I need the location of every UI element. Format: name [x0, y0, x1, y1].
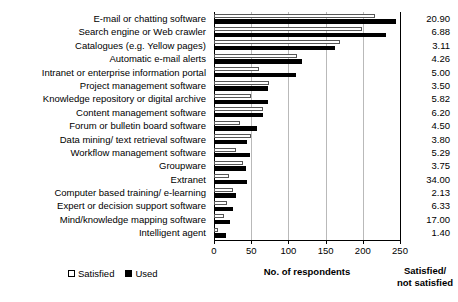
- bar-satisfied: [214, 54, 297, 58]
- bar-satisfied: [214, 27, 362, 31]
- bar-satisfied: [214, 148, 236, 152]
- category-label: Expert or decision support software: [0, 199, 210, 212]
- category-label: Content management software: [0, 106, 210, 119]
- legend-label-satisfied: Satisfied: [78, 268, 114, 279]
- satisfied-ratio-title: Satisfied/ not satisfied: [392, 265, 458, 288]
- satisfied-ratio-value: 3.11: [404, 39, 456, 52]
- bar-satisfied: [214, 188, 233, 192]
- bar-satisfied: [214, 14, 375, 18]
- x-axis-line: [214, 240, 400, 241]
- category-label: Workflow management software: [0, 146, 210, 159]
- bar-group: [214, 79, 400, 92]
- bar-group: [214, 119, 400, 132]
- gridline: [400, 12, 401, 240]
- bar-group: [214, 25, 400, 38]
- bar-satisfied: [214, 134, 251, 138]
- bar-group: [214, 173, 400, 186]
- bar-used: [214, 153, 250, 157]
- bar-group: [214, 213, 400, 226]
- bar-used: [214, 73, 296, 77]
- satisfied-ratio-value: 2.13: [404, 186, 456, 199]
- bar-satisfied: [214, 94, 251, 98]
- bar-satisfied: [214, 214, 224, 218]
- bar-group: [214, 186, 400, 199]
- bar-group: [214, 133, 400, 146]
- x-axis-title: No. of respondents: [214, 266, 400, 277]
- satisfied-ratio-value: 4.26: [404, 52, 456, 65]
- bar-satisfied: [214, 40, 340, 44]
- category-label: Catalogues (e.g. Yellow pages): [0, 39, 210, 52]
- legend: Satisfied Used: [68, 268, 158, 279]
- x-axis-tick-label: 250: [392, 245, 408, 256]
- satisfied-ratio-value: 3.75: [404, 159, 456, 172]
- category-label: Groupware: [0, 159, 210, 172]
- bar-used: [214, 220, 230, 224]
- bars-container: [214, 12, 400, 240]
- category-label-column: E-mail or chatting softwareSearch engine…: [0, 12, 210, 240]
- bar-satisfied: [214, 161, 243, 165]
- x-axis-tick: [326, 240, 327, 244]
- bar-used: [214, 126, 257, 130]
- bar-used: [214, 19, 396, 23]
- bar-satisfied: [214, 121, 240, 125]
- bar-used: [214, 46, 335, 50]
- category-label: Intelligent agent: [0, 226, 210, 239]
- x-axis-tick-label: 0: [211, 245, 216, 256]
- satisfied-ratio-title-line1: Satisfied/: [392, 265, 458, 277]
- category-label: Knowledge repository or digital archive: [0, 92, 210, 105]
- x-axis-tick-label: 150: [318, 245, 334, 256]
- satisfied-ratio-value: 17.00: [404, 213, 456, 226]
- x-axis-tick: [214, 240, 215, 244]
- bar-satisfied: [214, 201, 227, 205]
- satisfied-ratio-value: 6.20: [404, 106, 456, 119]
- bar-used: [214, 207, 233, 211]
- legend-swatch-used-icon: [125, 270, 132, 277]
- satisfied-ratio-value: 5.00: [404, 66, 456, 79]
- x-axis-tick-label: 50: [246, 245, 257, 256]
- category-label: Data mining/ text retrieval software: [0, 133, 210, 146]
- bar-group: [214, 12, 400, 25]
- satisfied-ratio-value: 3.50: [404, 79, 456, 92]
- bar-group: [214, 92, 400, 105]
- category-label: Automatic e-mail alerts: [0, 52, 210, 65]
- bar-satisfied: [214, 228, 218, 232]
- bar-used: [214, 233, 226, 237]
- bar-satisfied: [214, 174, 229, 178]
- satisfied-ratio-value: 5.29: [404, 146, 456, 159]
- x-axis-tick-label: 100: [280, 245, 296, 256]
- bar-group: [214, 39, 400, 52]
- bar-group: [214, 52, 400, 65]
- plot-area: [214, 12, 400, 240]
- bar-group: [214, 66, 400, 79]
- bar-used: [214, 113, 263, 117]
- x-axis-tick: [288, 240, 289, 244]
- bar-group: [214, 159, 400, 172]
- legend-item-used: Used: [125, 268, 157, 279]
- satisfied-ratio-value: 34.00: [404, 173, 456, 186]
- bar-used: [214, 166, 246, 170]
- bar-satisfied: [214, 67, 259, 71]
- category-label: Intranet or enterprise information porta…: [0, 66, 210, 79]
- legend-label-used: Used: [135, 268, 157, 279]
- bar-used: [214, 140, 247, 144]
- satisfied-ratio-value: 4.50: [404, 119, 456, 132]
- category-label: E-mail or chatting software: [0, 12, 210, 25]
- bar-satisfied: [214, 81, 269, 85]
- satisfied-ratio-value: 6.33: [404, 199, 456, 212]
- category-label: Search engine or Web crawler: [0, 25, 210, 38]
- bar-used: [214, 33, 386, 37]
- satisfied-ratio-column: 20.906.883.114.265.003.505.826.204.503.8…: [404, 12, 456, 240]
- bar-used: [214, 100, 268, 104]
- x-axis-tick: [251, 240, 252, 244]
- bar-satisfied: [214, 107, 263, 111]
- bar-used: [214, 59, 302, 63]
- legend-swatch-satisfied-icon: [68, 270, 75, 277]
- satisfied-ratio-value: 1.40: [404, 226, 456, 239]
- x-axis-tick: [363, 240, 364, 244]
- bar-used: [214, 86, 268, 90]
- satisfied-ratio-value: 5.82: [404, 92, 456, 105]
- category-label: Extranet: [0, 173, 210, 186]
- bar-group: [214, 226, 400, 239]
- satisfied-ratio-value: 6.88: [404, 25, 456, 38]
- bar-group: [214, 146, 400, 159]
